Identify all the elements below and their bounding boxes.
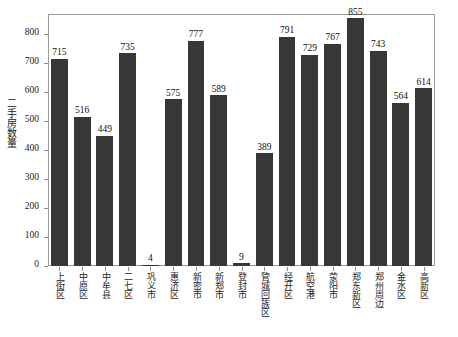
y-axis-tick-label: 700 (25, 56, 39, 66)
bar-group[interactable]: 4 (142, 14, 159, 266)
bar-group[interactable]: 516 (74, 14, 91, 266)
x-axis-tick-mark (310, 267, 311, 271)
bar-group[interactable]: 575 (165, 14, 182, 266)
x-axis-tick-label: 中原区 (78, 272, 88, 299)
x-axis-tick-label: 郑东新区 (351, 272, 361, 308)
y-axis-tick-label: 300 (25, 172, 39, 182)
bar-group[interactable]: 564 (392, 14, 409, 266)
x-axis-tick-label: 航空港 (305, 272, 315, 299)
bar[interactable] (233, 263, 250, 266)
bar-group[interactable]: 589 (210, 14, 227, 266)
x-axis-tick-label: 高新区 (419, 272, 429, 299)
bar-group[interactable]: 743 (370, 14, 387, 266)
bar-value-label: 589 (212, 84, 226, 94)
x-axis-tick-label: 中牟县 (100, 272, 110, 299)
bar-group[interactable]: 614 (415, 14, 432, 266)
bar-value-label: 9 (239, 252, 244, 262)
bar[interactable] (119, 53, 136, 266)
bar[interactable] (96, 136, 113, 266)
x-axis-tick-mark (333, 267, 334, 271)
bar[interactable] (279, 37, 296, 266)
bar-value-label: 516 (75, 105, 89, 115)
x-axis-tick-mark (219, 267, 220, 271)
bar-value-label: 777 (189, 29, 203, 39)
bar[interactable] (301, 55, 318, 266)
bar[interactable] (142, 265, 159, 267)
x-axis-tick-mark (128, 267, 129, 271)
bars-container: 7155164497354575777589938979172976785574… (48, 14, 435, 266)
bar-value-label: 575 (166, 88, 180, 98)
bar-value-label: 389 (257, 142, 271, 152)
y-axis-tick-label: 500 (25, 114, 39, 124)
x-axis-tick-label: 登封市 (237, 272, 247, 299)
bar-value-label: 614 (416, 77, 430, 87)
x-axis-tick-label: 巩义市 (146, 272, 156, 299)
x-axis-tick-label: 金水区 (396, 272, 406, 299)
bar-value-label: 564 (394, 91, 408, 101)
x-axis-tick-label: 惠济区 (169, 272, 179, 299)
bar[interactable] (256, 153, 273, 266)
x-axis-tick-label: 荥阳市 (328, 272, 338, 299)
bar[interactable] (324, 44, 341, 266)
bar-value-label: 767 (325, 32, 339, 42)
bar-value-label: 743 (371, 39, 385, 49)
y-axis-tick-label: 200 (25, 201, 39, 211)
bar-group[interactable]: 735 (119, 14, 136, 266)
bar-group[interactable]: 9 (233, 14, 250, 266)
x-axis-tick-mark (242, 267, 243, 271)
y-axis-tick-label: 100 (25, 230, 39, 240)
x-axis-tick-mark (378, 267, 379, 271)
x-axis-tick-mark (401, 267, 402, 271)
x-axis-tick-label: 新郑市 (214, 272, 224, 299)
bar-group[interactable]: 767 (324, 14, 341, 266)
x-axis-tick-mark (287, 267, 288, 271)
bar[interactable] (188, 41, 205, 266)
bar-group[interactable]: 855 (347, 14, 364, 266)
bar-value-label: 4 (148, 253, 153, 263)
bar-chart: 二手房数量 0100200300400500600700800 71551644… (0, 0, 458, 337)
x-axis-tick-mark (59, 267, 60, 271)
x-axis-tick-mark (105, 267, 106, 271)
y-axis-tick-label: 800 (25, 27, 39, 37)
bar[interactable] (392, 103, 409, 266)
y-axis-title: 二手房数量 (3, 98, 16, 148)
bar[interactable] (165, 99, 182, 266)
bar-value-label: 791 (280, 25, 294, 35)
x-axis-tick-label: 二七区 (123, 272, 133, 299)
bar-value-label: 735 (121, 42, 135, 52)
bar[interactable] (74, 117, 91, 266)
bar[interactable] (370, 51, 387, 266)
x-axis-tick-mark (82, 267, 83, 271)
y-axis-tick-label: 0 (34, 259, 39, 269)
bar-group[interactable]: 791 (279, 14, 296, 266)
x-axis-tick-mark (424, 267, 425, 271)
bar-group[interactable]: 729 (301, 14, 318, 266)
bar-group[interactable]: 715 (51, 14, 68, 266)
bar-group[interactable]: 389 (256, 14, 273, 266)
bar[interactable] (415, 88, 432, 266)
y-axis-tick-label: 400 (25, 143, 39, 153)
bar[interactable] (51, 59, 68, 266)
bar-value-label: 449 (98, 124, 112, 134)
y-axis-tick-mark (44, 266, 48, 267)
x-axis-tick-mark (150, 267, 151, 271)
bar-group[interactable]: 449 (96, 14, 113, 266)
x-axis-tick-mark (173, 267, 174, 271)
x-axis-labels: 上街区中原区中牟县二七区巩义市惠济区新密市新郑市登封市管城回族区经开区航空港荥阳… (48, 272, 435, 336)
x-axis-tick-mark (196, 267, 197, 271)
bar-group[interactable]: 777 (188, 14, 205, 266)
x-axis-tick-mark (355, 267, 356, 271)
bar-value-label: 715 (52, 47, 66, 57)
x-axis-tick-label: 郑州周边 (374, 272, 384, 308)
x-axis-tick-label: 管城回族区 (260, 272, 270, 317)
bar[interactable] (210, 95, 227, 266)
x-axis-tick-mark (264, 267, 265, 271)
bar-value-label: 855 (348, 7, 362, 17)
x-axis-tick-label: 经开区 (283, 272, 293, 299)
bar[interactable] (347, 18, 364, 266)
y-axis-tick-label: 600 (25, 85, 39, 95)
x-axis-tick-label: 新密市 (191, 272, 201, 299)
bar-value-label: 729 (303, 43, 317, 53)
x-axis-tick-label: 上街区 (55, 272, 65, 299)
